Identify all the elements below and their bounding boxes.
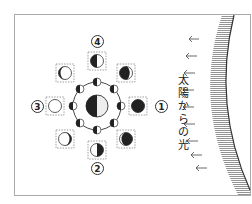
caption-char: ら: [176, 113, 190, 126]
label-3: 3: [31, 100, 44, 113]
caption-char: 陽: [176, 87, 190, 100]
caption-char: の: [176, 126, 190, 139]
sunlight-caption: 太 陽 か ら の 光: [176, 74, 190, 152]
caption-char: か: [176, 100, 190, 113]
caption-char: 光: [176, 139, 190, 152]
label-4: 4: [91, 35, 104, 48]
label-2: 2: [91, 162, 104, 175]
caption-char: 太: [176, 74, 190, 87]
earth: [86, 95, 108, 117]
label-1: 1: [155, 100, 168, 113]
